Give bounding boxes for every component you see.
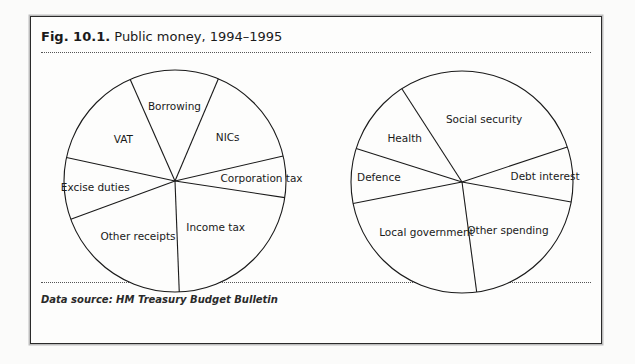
slice-label-social-security: Social security [446,113,522,125]
pie-spending: Social securityDebt interestOther spendi… [351,71,580,293]
slice-label-excise-duties: Excise duties [61,181,130,193]
slice-label-other-receipts: Other receipts [100,230,175,242]
slice-label-vat: VAT [114,133,134,145]
slice-label-corporation-tax: Corporation tax [220,172,302,184]
slice-label-nics: NICs [216,131,240,143]
pie-receipts: BorrowingNICsCorporation taxIncome taxOt… [61,70,303,292]
slice-label-defence: Defence [357,171,401,183]
slice-label-other-spending: Other spending [467,224,548,236]
slice-label-borrowing: Borrowing [148,100,201,112]
slice-label-debt-interest: Debt interest [511,170,580,182]
pie-charts: BorrowingNICsCorporation taxIncome taxOt… [0,0,635,364]
slice-label-health: Health [387,132,421,144]
slice-label-income-tax: Income tax [186,221,245,233]
slice-label-local-government: Local government [379,226,474,238]
